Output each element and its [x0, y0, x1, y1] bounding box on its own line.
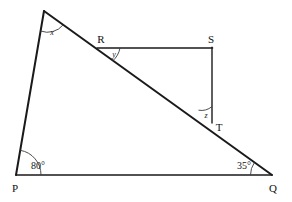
angle-arc-z [199, 107, 213, 111]
segment-apex-to-q [44, 11, 272, 175]
angle-label-y: y [112, 51, 116, 59]
vertex-label-r: R [97, 34, 104, 45]
angle-label-p-80: 80° [31, 161, 45, 171]
angle-arc-q [250, 163, 254, 175]
vertex-label-s: S [208, 34, 214, 45]
angle-label-q-35: 35° [237, 161, 251, 171]
geometry-canvas [0, 0, 292, 202]
vertex-label-p: P [12, 183, 18, 194]
vertex-label-q: Q [269, 183, 277, 194]
geometry-diagram: P Q R S T x y z 80° 35° [0, 0, 292, 202]
angle-label-x: x [50, 29, 54, 37]
angle-label-z: z [204, 112, 207, 120]
vertex-label-t: T [216, 122, 223, 133]
